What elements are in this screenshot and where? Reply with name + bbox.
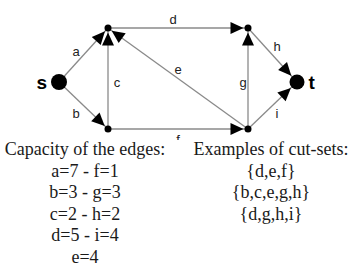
edge-e xyxy=(108,28,248,129)
capacity-line: e=4 xyxy=(0,247,170,269)
edge-label-d: d xyxy=(169,12,176,27)
capacity-list: Capacity of the edges: a=7 - f=1 b=3 - g… xyxy=(0,139,170,268)
capacity-heading: Capacity of the edges: xyxy=(0,139,170,161)
capacity-line: c=2 - h=2 xyxy=(0,204,170,226)
edge-label-c: c xyxy=(114,75,121,90)
node-w xyxy=(245,25,252,32)
arrowhead-icon xyxy=(242,33,254,46)
arrowhead-icon xyxy=(112,31,126,43)
edge-label-f: f xyxy=(176,132,180,141)
node-u xyxy=(105,25,112,32)
cutset-line: {d,e,f} xyxy=(185,161,357,183)
cutsets-heading: Examples of cut-sets: xyxy=(185,139,357,161)
cutset-line: {d,g,h,i} xyxy=(185,204,357,226)
node-label-s: s xyxy=(36,72,47,93)
cutsets-list: Examples of cut-sets: {d,e,f} {b,c,e,g,h… xyxy=(185,139,357,225)
capacity-line: b=3 - g=3 xyxy=(0,182,170,204)
edge-label-g: g xyxy=(239,75,246,90)
flow-network-graph: abcdefghist xyxy=(0,0,361,140)
node-v xyxy=(105,126,112,133)
node-s xyxy=(51,74,67,90)
edge-label-a: a xyxy=(72,44,80,59)
edges-layer xyxy=(59,22,297,135)
edge-label-h: h xyxy=(273,39,280,54)
node-label-t: t xyxy=(309,72,316,93)
node-t xyxy=(290,75,305,90)
cutset-line: {b,c,e,g,h} xyxy=(185,182,357,204)
capacity-line: a=7 - f=1 xyxy=(0,161,170,183)
edge-label-b: b xyxy=(72,106,79,121)
edge-label-e: e xyxy=(174,62,181,77)
edge-label-i: i xyxy=(276,106,279,121)
node-x xyxy=(245,126,252,133)
capacity-line: d=5 - i=4 xyxy=(0,225,170,247)
labels-layer: abcdefghist xyxy=(36,12,315,141)
arrowhead-icon xyxy=(231,22,244,34)
